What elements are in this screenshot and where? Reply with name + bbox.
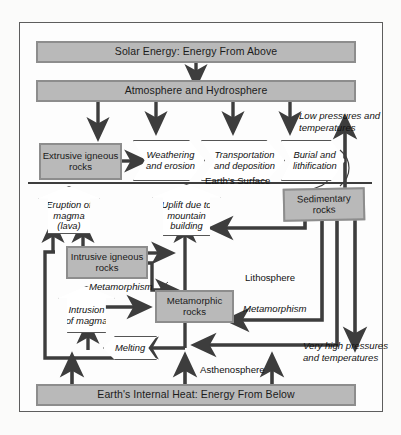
process-uplift-mountain-building: Uplift due to mountain building: [152, 184, 221, 236]
label-earths-surface: Earth's Surface: [205, 175, 270, 187]
label-very-high-pressures: Very high pressures and temperatures: [303, 340, 395, 363]
process-weathering-erosion: Weathering and erosion: [133, 140, 205, 181]
banner-atmosphere-hydrosphere-label: Atmosphere and Hydrosphere: [125, 85, 268, 97]
process-eruption-of-magma-label: Eruption of magma (lava): [39, 188, 99, 232]
process-uplift-mountain-building-label: Uplift due to mountain building: [153, 188, 220, 232]
rock-box-metamorphic: Metamorphic rocks: [155, 290, 234, 323]
banner-internal-heat-label: Earth's Internal Heat: Energy From Below: [97, 389, 294, 401]
process-melting: Melting: [103, 336, 157, 360]
process-melting-label: Melting: [104, 343, 156, 354]
process-intrusion-of-magma-label: Intrusion of magma: [59, 293, 114, 326]
banner-atmosphere-hydrosphere: Atmosphere and Hydrosphere: [36, 80, 356, 102]
rock-box-extrusive-igneous-label: Extrusive igneous rocks: [41, 151, 120, 172]
rock-box-metamorphic-label: Metamorphic rocks: [157, 296, 232, 317]
banner-solar-energy: Solar Energy: Energy From Above: [36, 41, 356, 63]
banner-solar-energy-label: Solar Energy: Energy From Above: [115, 46, 277, 58]
label-metamorphism-left: Metamorphism: [89, 281, 152, 293]
process-eruption-of-magma: Eruption of magma (lava): [38, 186, 100, 234]
label-asthenosphere: Asthenosphere: [200, 364, 265, 376]
process-burial-lithification-label: Burial and lithification: [282, 150, 344, 171]
process-intrusion-of-magma: Intrusion of magma: [58, 286, 115, 333]
process-burial-lithification: Burial and lithification: [281, 140, 345, 181]
label-metamorphism-right: Metamorphism: [243, 303, 306, 315]
banner-internal-heat: Earth's Internal Heat: Energy From Below: [36, 384, 356, 406]
rock-box-intrusive-igneous: Intrusive igneous rocks: [66, 246, 148, 279]
label-low-pressures: Low pressures and temperatures: [299, 110, 395, 133]
rock-cycle-diagram: Solar Energy: Energy From Above Atmosphe…: [0, 0, 401, 435]
process-weathering-erosion-label: Weathering and erosion: [134, 150, 204, 171]
rock-box-sedimentary: Sedimentary rocks: [283, 187, 366, 222]
label-lithosphere: Lithosphere: [245, 272, 295, 284]
rock-box-intrusive-igneous-label: Intrusive igneous rocks: [68, 252, 146, 273]
rock-box-sedimentary-label: Sedimentary rocks: [285, 193, 363, 216]
rock-box-extrusive-igneous: Extrusive igneous rocks: [39, 143, 122, 180]
process-transportation-deposition-label: Transportation and deposition: [202, 150, 284, 171]
